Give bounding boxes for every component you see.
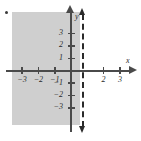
y-tick-2 [68,45,75,46]
y-axis-arrowhead [66,5,74,13]
y-tick-label-2: 2 [49,41,63,49]
x-tick-label-2: 2 [97,76,111,84]
dashed-boundary-line-x-equals-1 [82,14,84,127]
y-tick-label-minus-1: −1 [49,79,63,87]
y-axis-line [70,12,72,132]
y-tick-minus-2 [68,95,75,96]
x-tick-minus-1 [54,67,55,74]
x-axis-arrowhead [129,66,137,74]
x-tick-minus-2 [38,67,39,74]
x-tick-minus-3 [21,67,22,74]
y-tick-minus-1 [68,82,75,83]
x-tick-label-3: 3 [113,76,127,84]
x-tick-label-minus-3: −3 [15,76,29,84]
x-tick-label-minus-2: −2 [31,76,45,84]
x-tick-3 [119,67,120,74]
y-tick-3 [68,33,75,34]
x-axis-line [6,70,130,72]
x-tick-2 [103,67,104,74]
y-tick-label-3: 3 [49,29,63,37]
boundary-arrowhead-top [79,8,85,15]
y-tick-label-1: 1 [49,54,63,62]
boundary-arrowhead-bottom [79,126,85,133]
y-tick-1 [68,58,75,59]
y-tick-label-minus-3: −3 [49,103,63,111]
scan-speck-artifact [5,11,8,14]
x-axis-label: x [126,57,130,65]
y-tick-minus-3 [68,107,75,108]
inequality-graph-figure: −3 −2 −1 2 3 3 2 1 −1 −2 −3 x y [0,0,141,141]
y-tick-label-minus-2: −2 [49,91,63,99]
